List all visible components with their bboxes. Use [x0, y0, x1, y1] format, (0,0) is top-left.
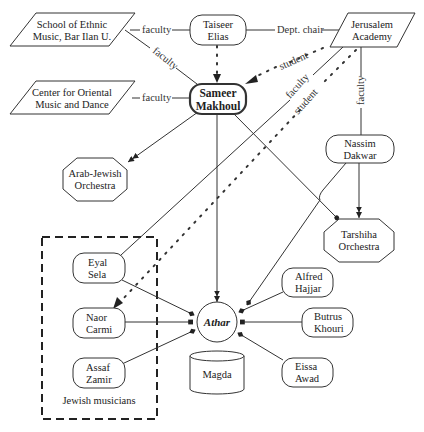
arrowhead-icon — [245, 75, 258, 84]
svg-text:Carmi: Carmi — [86, 324, 112, 335]
svg-text:Orchestra: Orchestra — [339, 241, 380, 252]
svg-text:Hajjar: Hajjar — [295, 283, 322, 294]
node-eyal-sela[interactable]: Eyal Sela — [73, 253, 125, 283]
svg-text:Makhoul: Makhoul — [196, 100, 241, 112]
arrowhead-icon — [213, 74, 221, 83]
edge-jerusalem-eyal — [313, 47, 343, 75]
edge-assaf-athar — [122, 330, 195, 364]
svg-text:Alfred: Alfred — [295, 271, 323, 282]
edge-label-center-sameer: faculty — [142, 92, 172, 103]
node-athar[interactable]: Athar — [197, 302, 237, 342]
node-jerusalem-academy[interactable]: Jerusalem Academy — [330, 13, 415, 47]
svg-text:Jerusalem: Jerusalem — [351, 19, 393, 30]
relationship-diagram: Jewish musicians faculty faculty faculty… — [0, 0, 424, 432]
svg-text:Zamir: Zamir — [86, 374, 112, 385]
svg-text:Orchestra: Orchestra — [75, 180, 116, 191]
node-magda[interactable]: Magda — [190, 351, 244, 394]
node-sameer-makhoul[interactable]: Sameer Makhoul — [190, 84, 246, 114]
svg-text:Taiseer: Taiseer — [203, 19, 234, 30]
svg-text:Center for Oriental: Center for Oriental — [32, 87, 112, 98]
edge-sameer-arabjewish — [128, 112, 198, 162]
edge-label-school-taiseer: faculty — [142, 24, 172, 35]
node-center-oriental-music[interactable]: Center for Oriental Music and Dance — [10, 81, 135, 114]
svg-text:Assaf: Assaf — [86, 362, 110, 373]
svg-text:Awad: Awad — [295, 373, 320, 384]
node-school-ethnic-music[interactable]: School of Ethnic Music, Bar Ilan U. — [10, 13, 135, 46]
node-butrus-khouri[interactable]: Butrus Khouri — [302, 308, 353, 337]
svg-text:Music, Bar Ilan U.: Music, Bar Ilan U. — [33, 31, 111, 42]
svg-text:School of Ethnic: School of Ethnic — [37, 19, 108, 30]
node-taiseer-elias[interactable]: Taiseer Elias — [190, 15, 246, 45]
svg-text:Music and Dance: Music and Dance — [35, 99, 109, 110]
edge-label-jerusalem-sameer: student — [277, 49, 309, 71]
svg-text:Dakwar: Dakwar — [343, 150, 377, 161]
svg-text:Khouri: Khouri — [314, 323, 344, 334]
node-assaf-zamir[interactable]: Assaf Zamir — [73, 358, 125, 388]
svg-text:Academy: Academy — [352, 31, 393, 42]
node-eissa-awad[interactable]: Eissa Awad — [282, 358, 333, 387]
svg-text:Athar: Athar — [203, 316, 231, 328]
svg-text:Elias: Elias — [208, 31, 229, 42]
svg-text:Eissa: Eissa — [295, 361, 318, 372]
svg-text:Magda: Magda — [202, 369, 231, 380]
cluster-label: Jewish musicians — [62, 395, 135, 406]
svg-text:Tarshiha: Tarshiha — [341, 229, 377, 240]
node-tarshiha-orchestra[interactable]: Tarshiha Orchestra — [324, 219, 394, 262]
arrowhead-icon — [113, 297, 123, 309]
svg-text:Naor: Naor — [86, 312, 107, 323]
node-naor-carmi[interactable]: Naor Carmi — [73, 308, 125, 338]
edge-jerusalem-naor — [322, 50, 356, 84]
svg-text:Arab-Jewish: Arab-Jewish — [68, 168, 122, 179]
svg-text:Nassim: Nassim — [344, 138, 376, 149]
edge-label-school-sameer: faculty — [151, 45, 181, 72]
svg-text:Sela: Sela — [88, 269, 106, 280]
svg-text:Eyal: Eyal — [88, 257, 107, 268]
node-arab-jewish-orchestra[interactable]: Arab-Jewish Orchestra — [63, 158, 127, 201]
edge-label-jerusalem-nassim: faculty — [355, 75, 366, 105]
svg-text:Sameer: Sameer — [199, 87, 236, 99]
edge-alfred-athar — [239, 292, 283, 312]
node-alfred-hajjar[interactable]: Alfred Hajjar — [282, 268, 333, 297]
svg-text:Butrus: Butrus — [314, 311, 342, 322]
node-nassim-dakwar[interactable]: Nassim Dakwar — [326, 135, 394, 163]
edge-eissa-athar — [238, 333, 283, 360]
edge-label-taiseer-jerusalem: Dept. chair — [277, 24, 324, 35]
